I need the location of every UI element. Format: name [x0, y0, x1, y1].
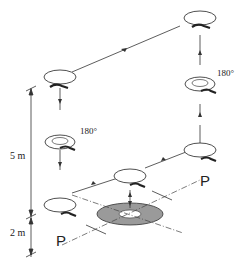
helicopter-icon	[44, 198, 76, 216]
arrow-up-icon	[198, 50, 202, 55]
helicopter-icon	[44, 70, 76, 88]
plane-label-right: P	[200, 172, 210, 189]
rotation-label-left: 180°	[80, 126, 97, 136]
arrow-down-icon	[58, 99, 62, 104]
rotation-label-right: 180°	[217, 68, 234, 78]
arrow-right-icon	[91, 181, 96, 185]
helicopter-icon	[184, 11, 216, 28]
plane-label-left: P	[56, 232, 66, 249]
helicopter-rotating-icon	[45, 135, 75, 150]
arrow-up-icon	[198, 112, 202, 117]
height-label-5m: 5 m	[10, 150, 25, 161]
helicopter-rotating-icon	[185, 77, 216, 93]
helicopter-icon	[184, 143, 216, 161]
height-label-2m: 2 m	[10, 227, 25, 238]
dimension-lines	[26, 86, 36, 257]
helicopters	[44, 11, 216, 216]
helicopter-icon	[114, 169, 146, 187]
flight-path-diagram	[0, 0, 242, 269]
arrow-up-icon	[128, 192, 132, 197]
arrow-left-icon	[121, 48, 127, 52]
arrow-down-icon	[58, 162, 62, 167]
